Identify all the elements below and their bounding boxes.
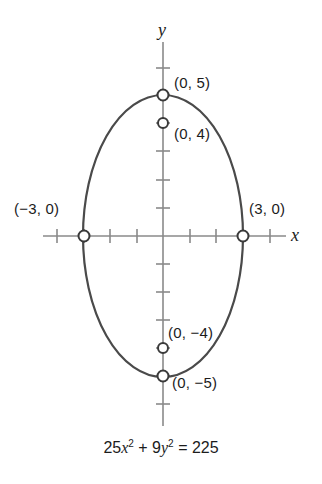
x-axis-label: x <box>291 225 299 246</box>
ellipse-graph <box>0 0 322 484</box>
point-bottom-vertex[interactable] <box>158 371 169 382</box>
equation-exp-y: 2 <box>168 438 174 449</box>
equation-coef-y2: 9 <box>152 439 161 456</box>
equation-equals: = <box>178 439 187 456</box>
point-upper-focus[interactable] <box>158 118 168 128</box>
label-top-vertex: (0, 5) <box>174 74 210 91</box>
label-upper-focus: (0, 4) <box>174 125 210 142</box>
equation-plus: + <box>138 439 147 456</box>
point-right-vertex[interactable] <box>238 231 249 242</box>
point-top-vertex[interactable] <box>158 90 169 101</box>
label-left-vertex: (−3, 0) <box>14 200 59 217</box>
equation-exp-x: 2 <box>128 438 134 449</box>
point-left-vertex[interactable] <box>79 231 90 242</box>
label-bottom-vertex: (0, −5) <box>172 374 217 391</box>
equation-coef-x2: 25 <box>103 439 121 456</box>
equation-caption: 25x2 + 9y2 = 225 <box>0 438 322 457</box>
y-axis-label: y <box>158 20 166 41</box>
equation-rhs: 225 <box>192 439 219 456</box>
label-lower-focus: (0, −4) <box>168 324 213 341</box>
point-lower-focus[interactable] <box>158 343 168 353</box>
label-right-vertex: (3, 0) <box>249 200 285 217</box>
